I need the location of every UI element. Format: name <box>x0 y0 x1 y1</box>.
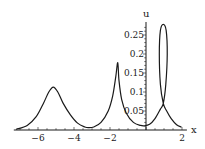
y-axis-label: u <box>143 8 150 19</box>
y-tick-label: 0.25 <box>124 30 144 40</box>
axes: −6−4−22 0.050.10.150.20.25 x u <box>14 8 197 143</box>
chart-plot-area: −6−4−22 0.050.10.150.20.25 x u <box>0 0 205 149</box>
y-tick-label: 0.2 <box>130 49 144 59</box>
y-tick-label: 0.15 <box>124 68 144 78</box>
x-tick-label: −2 <box>103 133 116 143</box>
x-tick-labels: −6−4−22 <box>31 133 185 143</box>
data-curve <box>16 24 181 129</box>
x-axis-label: x <box>191 124 197 135</box>
y-tick-label: 0.1 <box>130 87 144 97</box>
y-tick-labels: 0.050.10.150.20.25 <box>124 30 144 116</box>
x-tick-label: −4 <box>67 133 81 143</box>
x-tick-label: −6 <box>31 133 45 143</box>
x-tick-label: 2 <box>179 133 185 143</box>
